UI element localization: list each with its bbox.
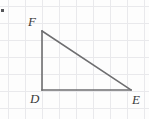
vertex-label-e: E	[132, 93, 140, 106]
figure-background	[0, 0, 149, 119]
geometry-figure: F D E	[0, 0, 149, 119]
vertex-label-d: D	[30, 92, 39, 105]
left-edge-mark	[1, 9, 4, 12]
triangle-canvas	[0, 0, 149, 119]
vertex-label-f: F	[28, 15, 36, 28]
